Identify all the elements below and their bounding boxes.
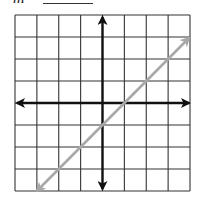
plotted-line xyxy=(37,38,189,191)
coordinate-grid xyxy=(0,0,198,200)
